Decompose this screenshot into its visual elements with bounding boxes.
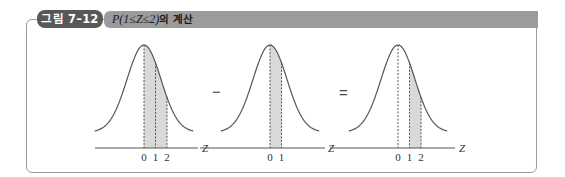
z-axis-label: Z xyxy=(459,142,466,154)
normal-distribution-diagram: 012Z01Z012Z − = xyxy=(0,0,565,177)
tick-label: 1 xyxy=(153,151,159,163)
tick-label: 2 xyxy=(164,151,170,163)
shaded-area xyxy=(410,63,422,148)
equals-operator: = xyxy=(339,84,348,101)
shaded-area xyxy=(270,45,282,148)
normal-curve-panel-3: 012Z xyxy=(330,45,466,163)
shaded-area xyxy=(144,45,167,148)
tick-label: 0 xyxy=(395,151,401,163)
tick-label: 1 xyxy=(407,151,413,163)
tick-label: 1 xyxy=(279,151,285,163)
tick-label: 2 xyxy=(418,151,424,163)
normal-curve-panel-1: 012Z xyxy=(95,45,209,163)
minus-operator: − xyxy=(212,83,221,100)
tick-label: 0 xyxy=(141,151,147,163)
normal-curve-panel-2: 01Z xyxy=(200,45,335,163)
tick-label: 0 xyxy=(267,151,273,163)
